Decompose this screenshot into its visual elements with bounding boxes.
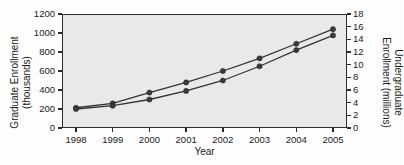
right-tick-mark (347, 39, 351, 40)
right-tick-mark (347, 77, 351, 78)
left-tick-label: 1200 (15, 9, 55, 19)
right-axis-title-line1: Undergraduate (393, 49, 404, 116)
x-tick-label: 2003 (240, 135, 280, 145)
series-marker-1 (294, 48, 299, 53)
right-tick-label: 2 (353, 110, 375, 120)
right-tick-label: 18 (353, 9, 375, 19)
series-marker-0 (257, 56, 262, 61)
x-tick-mark (296, 128, 297, 132)
x-tick-label: 2004 (276, 135, 316, 145)
x-tick-label: 1999 (93, 135, 133, 145)
x-tick-mark (75, 128, 76, 132)
right-tick-mark (347, 115, 351, 116)
series-marker-1 (73, 106, 78, 111)
series-marker-0 (330, 27, 335, 32)
series-line-0 (76, 29, 333, 108)
series-marker-0 (294, 41, 299, 46)
right-tick-mark (347, 51, 351, 52)
right-tick-mark (347, 89, 351, 90)
right-tick-label: 0 (353, 123, 375, 133)
left-axis-title: Graduate Enrollment (thousands) (9, 23, 32, 143)
right-tick-mark (347, 127, 351, 128)
right-tick-mark (347, 102, 351, 103)
x-tick-mark (259, 128, 260, 132)
right-tick-mark (347, 64, 351, 65)
right-tick-mark (347, 26, 351, 27)
right-tick-mark (347, 13, 351, 14)
series-marker-1 (257, 64, 262, 69)
series-marker-0 (147, 90, 152, 95)
x-tick-label: 2005 (313, 135, 353, 145)
x-tick-label: 1998 (56, 135, 96, 145)
x-tick-mark (222, 128, 223, 132)
series-line-1 (76, 35, 333, 109)
series-marker-1 (184, 88, 189, 93)
x-tick-label: 2002 (203, 135, 243, 145)
series-marker-0 (184, 80, 189, 85)
right-tick-label: 10 (353, 60, 375, 70)
series-marker-1 (330, 33, 335, 38)
series-marker-1 (110, 103, 115, 108)
left-axis-title-line1: Graduate Enrollment (9, 36, 20, 128)
x-axis-title: Year (62, 146, 347, 158)
x-tick-mark (185, 128, 186, 132)
x-tick-mark (332, 128, 333, 132)
right-axis-title-line2: Enrollment (millions) (381, 37, 392, 128)
right-tick-label: 14 (353, 34, 375, 44)
series-marker-1 (220, 78, 225, 83)
right-tick-label: 12 (353, 47, 375, 57)
right-tick-label: 4 (353, 98, 375, 108)
right-tick-label: 8 (353, 72, 375, 82)
left-axis-title-line2: (thousands) (20, 56, 31, 109)
series-marker-1 (147, 97, 152, 102)
x-tick-label: 2000 (129, 135, 169, 145)
right-tick-label: 16 (353, 22, 375, 32)
series-marker-0 (220, 68, 225, 73)
right-tick-label: 6 (353, 85, 375, 95)
x-tick-label: 2001 (166, 135, 206, 145)
x-tick-mark (112, 128, 113, 132)
right-axis-title: Undergraduate Enrollment (millions) (381, 23, 404, 143)
x-tick-mark (149, 128, 150, 132)
series-layer (62, 14, 347, 128)
